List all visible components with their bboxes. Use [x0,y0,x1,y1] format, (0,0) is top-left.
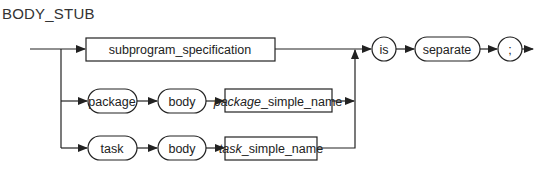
package-body-label: body [168,95,196,109]
task-body-label: body [168,142,196,156]
package-simple-name-label: package_simple_name [213,95,343,109]
semicolon-label: ; [508,43,511,57]
task-label: task [101,142,125,156]
package-label: package [88,95,135,109]
is-label: is [379,43,388,57]
syntax-diagram: subprogram_specification package body pa… [0,0,558,171]
task-simple-name-label: task_simple_name [219,142,323,156]
separate-label: separate [423,43,472,57]
subprogram-specification-label: subprogram_specification [109,43,251,57]
